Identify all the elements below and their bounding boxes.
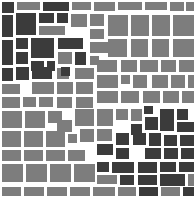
mosaic-tile — [93, 187, 115, 196]
mosaic-tile — [2, 187, 21, 196]
mosaic-tile-pattern — [0, 0, 196, 201]
mosaic-tile — [173, 39, 194, 57]
mosaic-tile — [138, 162, 157, 173]
mosaic-tile — [152, 15, 170, 36]
mosaic-tile — [121, 75, 130, 84]
mosaic-tile — [17, 2, 40, 10]
mosaic-tile — [152, 39, 169, 57]
mosaic-tile — [149, 133, 161, 146]
mosaic-tile — [74, 164, 95, 182]
mosaic-tile — [179, 60, 194, 72]
mosaic-tile — [2, 150, 21, 161]
mosaic-tile — [57, 97, 72, 108]
mosaic-tile — [75, 52, 86, 65]
mosaic-tile — [160, 162, 176, 172]
mosaic-tile — [163, 91, 179, 103]
mosaic-tile — [131, 39, 148, 57]
mosaic-tile — [2, 15, 13, 37]
mosaic-tile — [121, 60, 137, 72]
mosaic-tile — [139, 187, 158, 196]
mosaic-tile — [2, 84, 20, 94]
mosaic-tile — [26, 164, 47, 182]
mosaic-tile — [164, 135, 177, 146]
mosaic-tile — [25, 111, 45, 128]
mosaic-tile — [118, 187, 136, 196]
mosaic-tile — [138, 175, 157, 185]
mosaic-tile — [58, 38, 83, 49]
mosaic-tile — [2, 40, 13, 65]
mosaic-tile — [97, 175, 117, 184]
mosaic-tile — [182, 91, 194, 103]
mosaic-tile — [71, 14, 87, 27]
mosaic-tile — [160, 109, 174, 131]
mosaic-tile — [177, 122, 194, 132]
mosaic-tile — [183, 187, 194, 196]
mosaic-tile — [47, 187, 67, 196]
mosaic-tile — [188, 75, 194, 88]
mosaic-tile — [75, 68, 94, 79]
mosaic-tile — [97, 60, 117, 72]
mosaic-tile — [57, 13, 68, 23]
mosaic-tile — [116, 148, 129, 159]
mosaic-tile — [46, 150, 65, 161]
mosaic-tile — [171, 75, 185, 88]
mosaic-tile — [145, 148, 161, 159]
mosaic-tile — [121, 91, 139, 103]
mosaic-tile — [31, 38, 54, 58]
mosaic-tile — [50, 164, 71, 182]
mosaic-tile — [145, 117, 158, 130]
mosaic-tile — [112, 162, 134, 173]
mosaic-tile — [68, 134, 77, 143]
mosaic-tile — [90, 29, 104, 39]
mosaic-tile — [80, 129, 94, 142]
mosaic-tile — [16, 13, 36, 35]
mosaic-tile — [2, 97, 20, 108]
mosaic-tile — [116, 109, 128, 120]
mosaic-tile — [2, 111, 22, 128]
mosaic-tile — [2, 164, 23, 182]
mosaic-tile — [90, 42, 109, 53]
mosaic-tile — [24, 131, 43, 147]
mosaic-tile — [145, 2, 167, 10]
mosaic-tile — [133, 133, 146, 145]
mosaic-tile — [160, 174, 185, 186]
mosaic-tile — [131, 15, 149, 36]
mosaic-tile — [188, 174, 194, 186]
mosaic-tile — [97, 75, 118, 88]
mosaic-tile — [108, 15, 128, 36]
mosaic-tile — [161, 187, 180, 196]
mosaic-tile — [39, 26, 65, 35]
mosaic-tile — [116, 133, 129, 145]
mosaic-tile — [24, 150, 43, 161]
mosaic-tile — [58, 52, 72, 64]
mosaic-tile — [90, 14, 104, 26]
mosaic-tile — [108, 39, 127, 57]
mosaic-tile — [46, 131, 65, 147]
mosaic-tile — [97, 129, 112, 141]
mosaic-tile — [179, 162, 194, 172]
mosaic-tile — [164, 148, 178, 159]
mosaic-tile — [32, 82, 54, 94]
mosaic-tile — [140, 60, 158, 72]
mosaic-tile — [161, 60, 176, 72]
mosaic-tile — [94, 2, 115, 11]
mosaic-tile — [61, 67, 70, 76]
mosaic-tile — [39, 97, 53, 107]
mosaic-tile — [43, 2, 69, 11]
mosaic-tile — [180, 135, 194, 146]
mosaic-tile — [2, 68, 13, 81]
mosaic-tile — [16, 38, 28, 49]
mosaic-tile — [181, 148, 194, 159]
mosaic-tile — [118, 2, 142, 10]
mosaic-tile — [72, 2, 91, 10]
mosaic-tile — [120, 175, 134, 185]
mosaic-tile — [24, 187, 44, 196]
mosaic-tile — [2, 2, 14, 13]
mosaic-tile — [68, 150, 85, 161]
mosaic-tile — [97, 162, 109, 172]
mosaic-tile — [152, 75, 168, 88]
mosaic-tile — [170, 2, 184, 11]
mosaic-tile — [131, 109, 142, 121]
mosaic-tile — [32, 67, 52, 79]
mosaic-tile — [16, 52, 28, 64]
